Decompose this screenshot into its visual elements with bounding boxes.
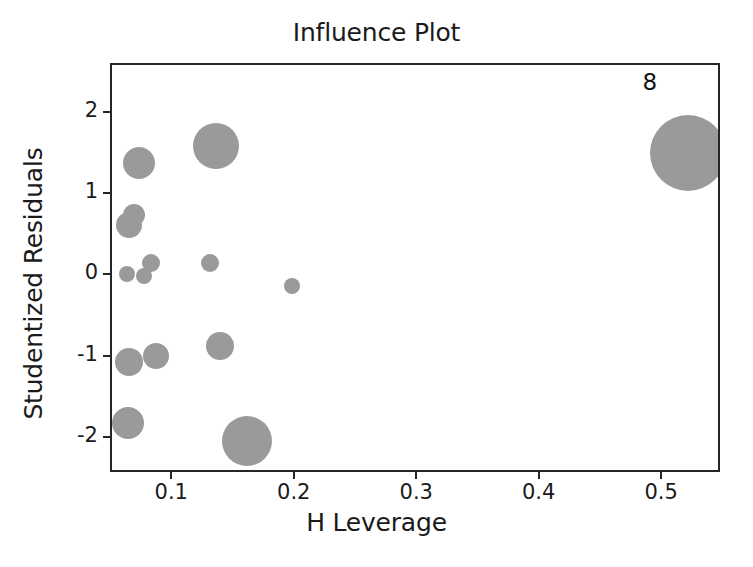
y-axis-tick — [103, 436, 110, 438]
scatter-point — [123, 147, 155, 179]
scatter-point — [116, 212, 142, 238]
y-axis-tick-label: -2 — [60, 423, 98, 447]
x-axis-tick-label: 0.1 — [136, 480, 206, 504]
x-axis-tick — [293, 472, 295, 479]
y-axis-tick — [103, 355, 110, 357]
y-axis-tick — [103, 273, 110, 275]
x-axis-tick — [660, 472, 662, 479]
x-axis-tick-label: 0.3 — [381, 480, 451, 504]
y-axis-tick — [103, 192, 110, 194]
y-axis-tick — [103, 111, 110, 113]
x-axis-tick — [170, 472, 172, 479]
y-axis-tick-label: 1 — [60, 179, 98, 203]
scatter-point — [206, 332, 234, 360]
x-axis-label: H Leverage — [0, 508, 753, 537]
scatter-point — [136, 268, 152, 284]
x-axis-tick — [415, 472, 417, 479]
scatter-point — [143, 343, 169, 369]
scatter-point — [119, 266, 135, 282]
scatter-point — [193, 123, 239, 169]
x-axis-tick — [538, 472, 540, 479]
scatter-point — [650, 115, 720, 191]
point-label: 8 — [642, 69, 657, 95]
y-axis-tick-label: -1 — [60, 342, 98, 366]
x-axis-tick-label: 0.5 — [626, 480, 696, 504]
plot-area: 8 — [110, 63, 720, 472]
scatter-point — [115, 348, 143, 376]
y-axis-label: Studentized Residuals — [14, 0, 54, 567]
scatter-point — [112, 407, 144, 439]
scatter-point — [284, 278, 300, 294]
y-axis-tick-label: 0 — [60, 260, 98, 284]
scatter-point — [222, 416, 272, 466]
x-axis-tick-label: 0.4 — [504, 480, 574, 504]
scatter-point — [201, 254, 219, 272]
y-axis-tick-label: 2 — [60, 98, 98, 122]
x-axis-tick-label: 0.2 — [259, 480, 329, 504]
page-title: Influence Plot — [0, 18, 753, 47]
influence-plot-figure: Influence Plot Studentized Residuals H L… — [0, 0, 753, 567]
